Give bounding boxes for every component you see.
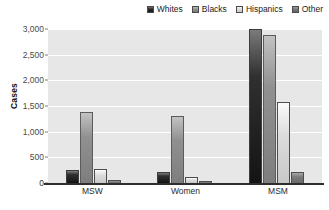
bar-groups	[48, 29, 322, 183]
legend-item-other: Other	[292, 5, 323, 14]
legend-label-other: Other	[302, 5, 323, 14]
y-axis-tick-label: 2,000	[23, 75, 44, 85]
bar-whites-msw[interactable]	[66, 170, 79, 183]
legend-label-hispanics: Hispanics	[246, 5, 283, 14]
legend-swatch-other	[292, 6, 299, 13]
legend-item-hispanics: Hispanics	[236, 5, 283, 14]
bar-hispanics-msm[interactable]	[277, 102, 290, 183]
legend-label-blacks: Blacks	[202, 5, 227, 14]
y-axis-tick-label: 500	[30, 152, 44, 162]
bar-group	[66, 29, 121, 183]
legend-item-blacks: Blacks	[192, 5, 227, 14]
bar-group	[249, 29, 304, 183]
legend-item-whites: Whites	[147, 5, 183, 14]
bar-blacks-women[interactable]	[171, 116, 184, 183]
x-axis-labels: MSWWomenMSM	[48, 186, 322, 202]
bar-other-msm[interactable]	[291, 172, 304, 183]
legend-swatch-whites	[147, 6, 154, 13]
plot-area: 3,0002,5002,0001,5001,0005000	[48, 29, 322, 183]
x-axis-line	[44, 183, 324, 185]
y-axis-title: Cases	[9, 83, 19, 109]
y-axis-tick-label: 3,000	[23, 24, 44, 34]
y-axis-tick-label: 2,500	[23, 50, 44, 60]
bar-blacks-msm[interactable]	[263, 35, 276, 183]
x-axis-tick-label: MSM	[268, 186, 288, 196]
x-axis-tick-label: Women	[171, 186, 200, 196]
bar-hispanics-msw[interactable]	[94, 169, 107, 183]
bar-whites-msm[interactable]	[249, 29, 262, 183]
legend-swatch-hispanics	[236, 6, 243, 13]
bar-blacks-msw[interactable]	[80, 112, 93, 183]
legend-label-whites: Whites	[157, 5, 183, 14]
chart-legend: Whites Blacks Hispanics Other	[0, 3, 323, 16]
bar-group	[157, 29, 212, 183]
y-axis-tick-label: 1,500	[23, 101, 44, 111]
bar-chart: Whites Blacks Hispanics Other Cases 3,00…	[0, 0, 329, 210]
bar-whites-women[interactable]	[157, 172, 170, 183]
legend-swatch-blacks	[192, 6, 199, 13]
x-axis-tick-label: MSW	[82, 186, 103, 196]
y-axis-tick-label: 1,000	[23, 127, 44, 137]
